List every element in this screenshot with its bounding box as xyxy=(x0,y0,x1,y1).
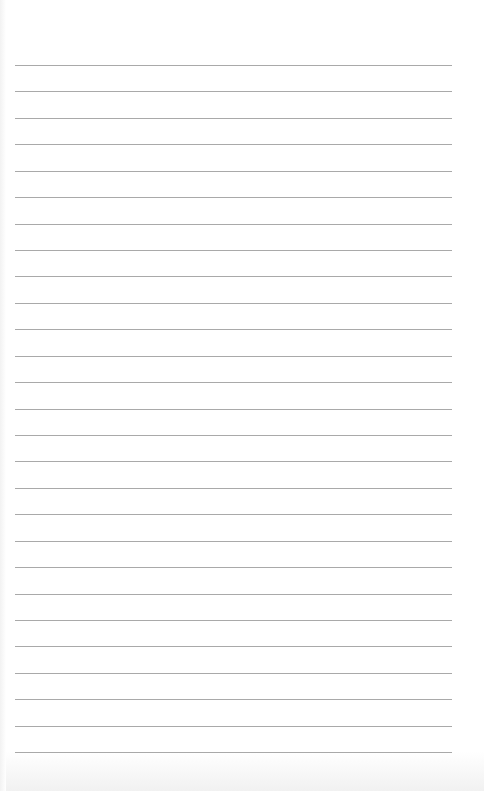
ruled-line xyxy=(15,752,452,753)
ruled-line xyxy=(15,699,452,700)
ruled-line xyxy=(15,250,452,251)
ruled-line xyxy=(15,171,452,172)
ruled-line xyxy=(15,541,452,542)
ruled-line xyxy=(15,726,452,727)
ruled-line xyxy=(15,567,452,568)
ruled-line xyxy=(15,594,452,595)
ruled-line xyxy=(15,144,452,145)
ruled-line xyxy=(15,329,452,330)
ruled-line xyxy=(15,65,452,66)
ruled-line xyxy=(15,382,452,383)
ruled-line xyxy=(15,620,452,621)
paper-left-edge-shadow xyxy=(0,0,6,791)
ruled-line xyxy=(15,224,452,225)
ruled-line xyxy=(15,461,452,462)
ruled-line xyxy=(15,303,452,304)
ruled-line xyxy=(15,118,452,119)
ruled-line xyxy=(15,673,452,674)
ruled-line xyxy=(15,514,452,515)
ruled-line xyxy=(15,646,452,647)
ruled-line xyxy=(15,488,452,489)
ruled-line xyxy=(15,197,452,198)
ruled-line xyxy=(15,356,452,357)
ruled-line xyxy=(15,409,452,410)
lined-paper-sheet xyxy=(0,0,484,791)
ruled-line xyxy=(15,435,452,436)
ruled-line xyxy=(15,276,452,277)
ruled-line xyxy=(15,91,452,92)
